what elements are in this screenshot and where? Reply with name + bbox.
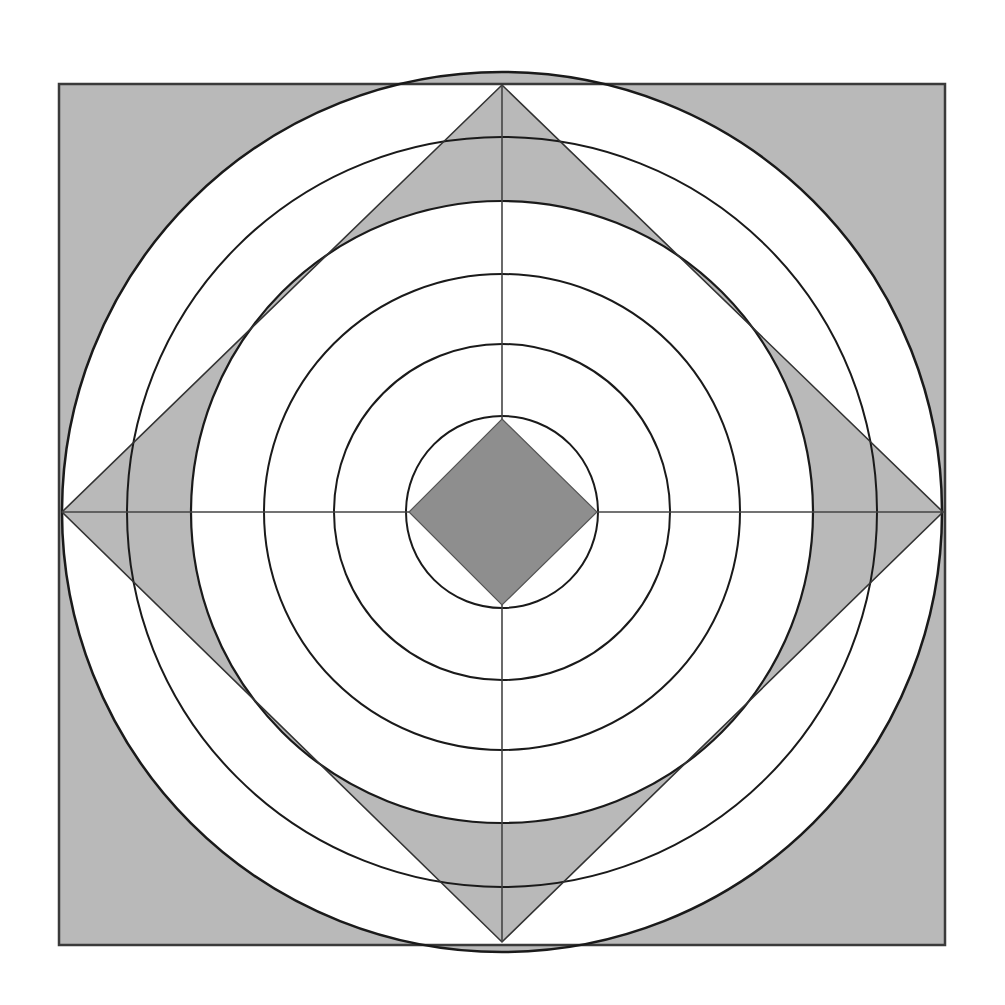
center-diamond	[409, 419, 597, 605]
figure-canvas	[0, 0, 1005, 1005]
